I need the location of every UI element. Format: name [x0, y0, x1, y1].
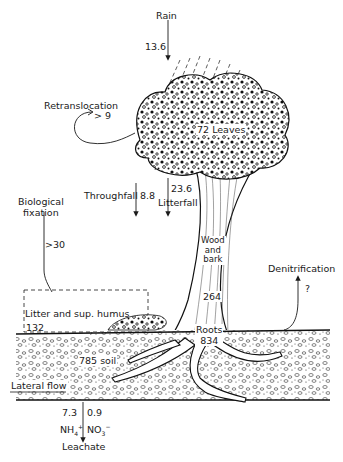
nh4-value: 7.3 [62, 407, 77, 418]
denitrification-label: Denitrification [268, 263, 335, 274]
denitrification-value: ? [305, 283, 310, 294]
no3-value: 0.9 [87, 407, 102, 418]
wood-value: 264 [202, 291, 222, 302]
litter-humus-label: Litter and sup. humus [25, 308, 129, 319]
leaves-text: Leaves [212, 124, 245, 135]
leachate-label: Leachate [62, 441, 105, 452]
litterfall-label: Litterfall [158, 197, 198, 208]
biological-fixation-value: >30 [45, 239, 65, 250]
throughfall-label: Throughfall [84, 190, 138, 201]
throughfall-value: 8.8 [140, 190, 155, 201]
diagram-artwork [0, 0, 343, 462]
roots-label: Roots 834 [195, 324, 223, 346]
biological-fixation-label: Biological fixation [18, 196, 64, 218]
litterfall-value: 23.6 [171, 183, 192, 194]
litter-humus-value: 132 [26, 322, 44, 333]
leaves-label: 72 Leaves [196, 124, 246, 135]
lateral-flow-label: Lateral flow [10, 380, 68, 391]
soil-label: 785 soil [78, 355, 117, 366]
leaves-value: 72 [197, 124, 209, 135]
nh4-label: NH4+ [60, 421, 83, 439]
rain-label: Rain [156, 10, 177, 21]
wood-and-bark-label: Wood and bark [200, 236, 226, 265]
retranslocation-value: > 9 [94, 110, 111, 121]
rain-value: 13.6 [145, 41, 166, 52]
nitrogen-cycle-diagram: Rain 13.6 Retranslocation > 9 72 Leaves … [0, 0, 343, 462]
no3-label: NO3− [87, 421, 110, 439]
